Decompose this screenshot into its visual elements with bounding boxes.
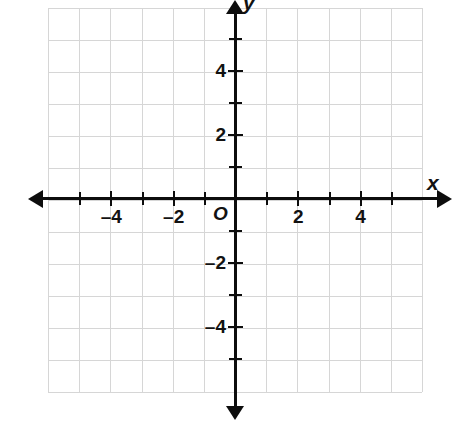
axis-x-tick — [110, 191, 112, 206]
axis-y-tick — [228, 262, 243, 264]
axis-y-tick — [228, 134, 243, 136]
axis-y-tick — [229, 358, 242, 360]
axis-y-arrow-up-icon — [226, 0, 244, 14]
grid-line-vertical — [422, 8, 423, 392]
axis-y-line — [234, 6, 237, 416]
axis-x-line — [34, 197, 446, 200]
origin-label: O — [213, 203, 228, 225]
axis-x-arrow-left-icon — [28, 190, 43, 208]
axis-x-tick — [204, 192, 206, 205]
coordinate-plane: O x y –4–22442–2–4 — [0, 0, 462, 433]
axis-y-tick — [229, 294, 242, 296]
axis-y-tick — [228, 326, 243, 328]
axis-x-tick — [329, 192, 331, 205]
axis-x-tick-label: 4 — [355, 206, 366, 228]
axis-y-tick — [229, 230, 242, 232]
axis-x-arrow-right-icon — [437, 190, 452, 208]
axis-y-tick — [229, 38, 242, 40]
axis-x-tick-label: –2 — [163, 206, 184, 228]
axis-x-tick — [360, 191, 362, 206]
axis-y-tick-label: 2 — [180, 124, 226, 146]
axis-x-tick-label: –4 — [101, 206, 122, 228]
axis-y-tick-label: –2 — [180, 252, 226, 274]
axis-y-tick-label: 4 — [180, 60, 226, 82]
axis-y-label: y — [243, 0, 255, 15]
axis-y-tick — [228, 70, 243, 72]
axis-y-tick — [229, 166, 242, 168]
axis-x-tick — [266, 192, 268, 205]
axis-x-tick — [142, 192, 144, 205]
axis-x-tick — [173, 191, 175, 206]
axis-x-tick — [297, 191, 299, 206]
axis-y-tick — [229, 102, 242, 104]
axis-x-tick — [79, 192, 81, 205]
axis-y-arrow-down-icon — [226, 406, 244, 420]
axis-x-label: x — [427, 171, 439, 195]
axis-y-tick-label: –4 — [180, 316, 226, 338]
axis-x-tick-label: 2 — [293, 206, 304, 228]
axis-x-tick — [391, 192, 393, 205]
